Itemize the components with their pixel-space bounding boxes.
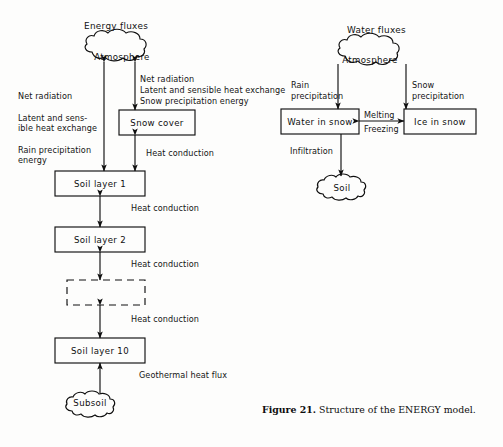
node-soil[interactable] — [318, 176, 366, 202]
node-soil-layer-1[interactable] — [55, 171, 145, 196]
edge-label-rain-precipitation-energy-line1: Rain precipitation — [18, 145, 91, 156]
node-subsoil[interactable] — [64, 389, 116, 419]
edge-label-geothermal-heat-flux: Geothermal heat flux — [139, 370, 227, 381]
node-soil-layer-2[interactable] — [55, 227, 145, 252]
figure-caption-label: Figure 21. — [262, 404, 316, 415]
edge-label-net-radiation-left: Net radiation — [18, 91, 72, 102]
edge-label-rain-precipitation-energy-line2: energy — [18, 155, 47, 166]
edge-label-snow-precipitation-energy: Snow precipitation energy — [140, 96, 249, 107]
edge-label-heat-conduction-dashed-10: Heat conduction — [131, 314, 199, 325]
edge-label-snow-line1: Snow — [412, 80, 434, 91]
figure-caption-text: Structure of the ENERGY model. — [316, 404, 476, 415]
diagram-vector-layer — [0, 0, 503, 447]
node-water-in-snow[interactable] — [281, 109, 359, 134]
edge-label-latent-sensible-snow: Latent and sensible heat exchange — [140, 85, 285, 96]
edge-label-heat-conduction-2-dashed: Heat conduction — [131, 259, 199, 270]
edge-label-heat-conduction-1-2: Heat conduction — [131, 203, 199, 214]
node-atmosphere-energy[interactable] — [87, 29, 149, 62]
edge-label-freezing: Freezing — [364, 124, 399, 135]
edge-label-latent-sensible-left-line2: ible heat exchange — [18, 123, 97, 134]
edge-label-rain-line1: Rain — [291, 80, 309, 91]
node-snow-cover[interactable] — [119, 110, 195, 135]
figure-caption: Figure 21. Structure of the ENERGY model… — [262, 404, 476, 415]
edge-label-infiltration: Infiltration — [290, 146, 333, 157]
figure-canvas: Energy fluxes Atmosphere Snow cover Soil… — [0, 0, 503, 447]
edge-label-melting: Melting — [364, 110, 395, 121]
edge-label-rain-line2: precipitation — [291, 91, 343, 102]
node-atmosphere-water[interactable] — [340, 33, 400, 66]
edge-label-net-radiation-snow: Net radiation — [140, 74, 194, 85]
node-soil-layer-10[interactable] — [55, 338, 145, 363]
node-ice-in-snow[interactable] — [404, 109, 476, 134]
node-soil-layer-dashed-placeholder[interactable] — [67, 280, 145, 305]
edge-label-heat-conduction-snow-soil1: Heat conduction — [146, 148, 214, 159]
edge-label-snow-line2: precipitation — [412, 91, 464, 102]
edge-label-latent-sensible-left-line1: Latent and sens- — [18, 113, 87, 124]
